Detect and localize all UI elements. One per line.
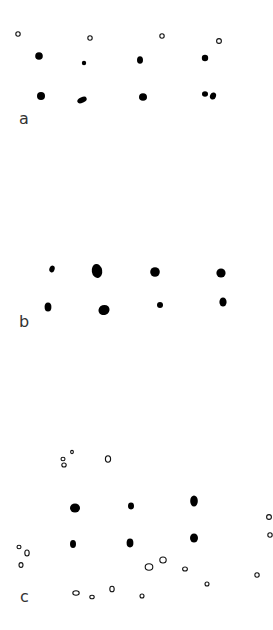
filled-dot <box>48 265 55 273</box>
open-circle <box>71 450 74 453</box>
panel-c <box>17 450 272 598</box>
filled-dot <box>91 263 104 279</box>
open-circle <box>19 563 23 568</box>
open-circle <box>145 564 153 570</box>
panel-label-a: a <box>19 111 29 127</box>
open-circle <box>217 39 222 44</box>
open-circle <box>160 34 164 38</box>
panel-label-b: b <box>19 314 29 330</box>
open-circle <box>105 456 110 462</box>
open-circle <box>140 594 144 598</box>
filled-dot <box>35 52 43 60</box>
open-circle <box>255 573 259 577</box>
open-circle <box>205 582 209 586</box>
filled-dot <box>76 95 87 104</box>
open-circle <box>25 550 29 556</box>
filled-dot <box>202 91 208 97</box>
panel-b <box>45 263 227 316</box>
filled-dot <box>150 267 160 277</box>
filled-dot <box>128 503 134 510</box>
open-circle <box>183 567 188 571</box>
filled-dot <box>97 303 111 316</box>
dot-pattern-canvas <box>0 0 273 630</box>
filled-dot <box>219 297 226 306</box>
filled-dot <box>70 540 76 548</box>
filled-dot <box>202 55 208 61</box>
open-circle <box>268 533 272 537</box>
filled-dot <box>139 93 147 101</box>
open-circle <box>88 36 92 40</box>
open-circle <box>110 586 114 592</box>
open-circle <box>62 463 66 467</box>
filled-dot <box>157 302 163 308</box>
filled-dot <box>37 92 45 100</box>
filled-dot <box>137 56 143 64</box>
filled-dot <box>82 61 86 65</box>
panel-label-c: c <box>20 589 29 605</box>
open-circle <box>267 515 272 520</box>
filled-dot <box>127 539 134 548</box>
filled-dot <box>209 92 217 101</box>
filled-dot <box>70 503 80 512</box>
dot-pattern-figure: a b c <box>0 0 273 630</box>
open-circle <box>16 32 20 36</box>
filled-dot <box>190 495 198 506</box>
panel-a <box>16 32 222 105</box>
filled-dot <box>216 268 225 277</box>
filled-dot <box>45 302 52 311</box>
open-circle <box>17 545 21 549</box>
open-circle <box>160 557 166 563</box>
open-circle <box>90 595 94 599</box>
filled-dot <box>190 533 198 542</box>
open-circle <box>61 457 65 461</box>
open-circle <box>73 591 79 595</box>
